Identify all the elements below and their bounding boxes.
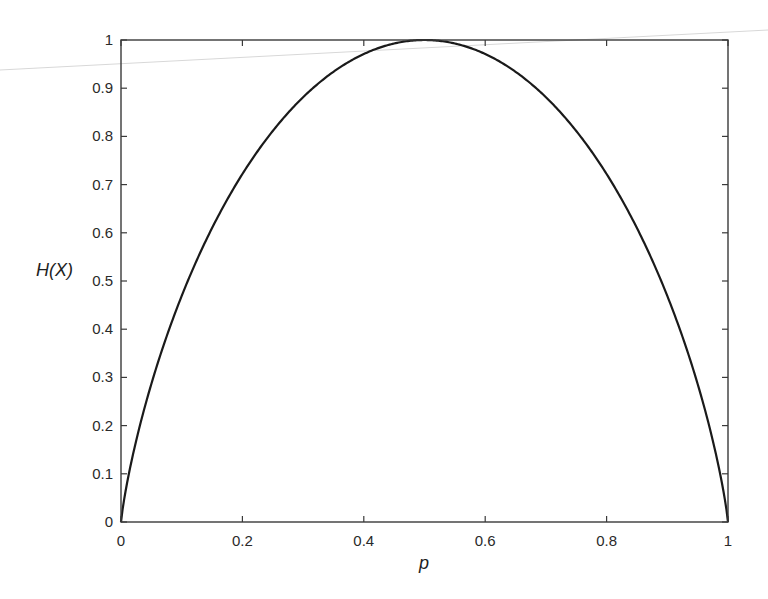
ticks-layer — [121, 40, 728, 522]
y-tick-label: 0.1 — [92, 465, 113, 482]
y-tick-label: 1 — [105, 31, 113, 48]
x-tick-label: 0.4 — [353, 532, 374, 549]
y-tick-label: 0 — [105, 513, 113, 530]
y-tick-label: 0.3 — [92, 368, 113, 385]
x-axis-label: p — [418, 553, 429, 573]
y-tick-label: 0.4 — [92, 320, 113, 337]
y-tick-label: 0.6 — [92, 224, 113, 241]
scan-artifact-line — [0, 30, 768, 70]
plot-frame — [121, 40, 728, 522]
y-tick-label: 0.7 — [92, 176, 113, 193]
x-tick-label: 0.8 — [596, 532, 617, 549]
x-tick-label: 0.6 — [475, 532, 496, 549]
entropy-chart: 00.20.40.60.8100.10.20.30.40.50.60.70.80… — [0, 0, 768, 599]
y-tick-label: 0.2 — [92, 417, 113, 434]
y-axis-label: H(X) — [36, 260, 73, 280]
entropy-curve — [121, 40, 728, 522]
y-tick-label: 0.8 — [92, 127, 113, 144]
y-tick-label: 0.9 — [92, 79, 113, 96]
x-tick-label: 0 — [117, 532, 125, 549]
tick-labels-layer: 00.20.40.60.8100.10.20.30.40.50.60.70.80… — [92, 31, 732, 549]
x-tick-label: 1 — [724, 532, 732, 549]
y-tick-label: 0.5 — [92, 272, 113, 289]
x-tick-label: 0.2 — [232, 532, 253, 549]
